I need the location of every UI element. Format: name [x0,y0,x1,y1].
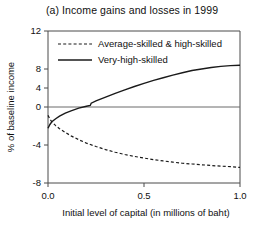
y-axis-title: % of baseline income [5,62,16,152]
y-tick-label-neg8: -8 [33,177,41,188]
x-axis-ticks [48,183,240,187]
series-line-very-high-skilled [48,65,240,128]
x-tick-label-05: 0.5 [137,190,150,201]
chart-plot-area: 12 8 4 0 -4 -8 0.0 0.5 1.0 Initial level… [0,0,264,236]
legend-label-very-high-skilled: Very-high-skilled [98,54,168,65]
x-axis-tick-labels: 0.0 0.5 1.0 [41,190,246,201]
y-tick-label-4: 4 [36,82,41,93]
chart-legend: Average-skilled & high-skilled Very-high… [58,38,222,65]
y-tick-label-8: 8 [36,63,41,74]
legend-label-average-high-skilled: Average-skilled & high-skilled [98,38,222,49]
y-axis-ticks [44,31,48,183]
chart-figure: (a) Income gains and losses in 1999 12 8… [0,0,264,236]
y-tick-label-12: 12 [30,25,41,36]
y-tick-label-neg4: -4 [33,139,41,150]
y-tick-label-0: 0 [36,101,41,112]
y-axis-tick-labels: 12 8 4 0 -4 -8 [30,25,41,188]
series-line-average-high-skilled [48,115,240,167]
x-tick-label-1: 1.0 [233,190,246,201]
x-tick-label-0: 0.0 [41,190,54,201]
x-axis-title: Initial level of capital (in millions of… [62,207,229,218]
